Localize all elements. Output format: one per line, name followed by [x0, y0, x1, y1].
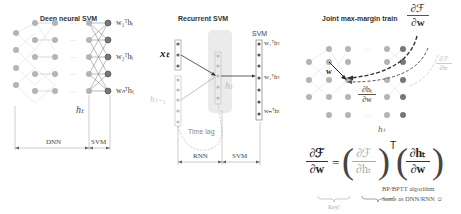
joint-hidden-label: hₜ — [378, 124, 386, 134]
recurrent-output-n: wₙᵀhₜ — [264, 107, 280, 115]
deep-span-dnn: DNN — [46, 138, 61, 146]
grad-w-fraction: ∂ℱ ∂w — [407, 2, 429, 28]
eq-lhs-den: ∂w — [306, 162, 328, 177]
grad-h-den: ∂hₜ — [436, 64, 452, 72]
recurrent-svm-panel: Recurrent SVM — [140, 0, 290, 214]
recurrent-output-1: w₁ᵀhₜ — [264, 39, 280, 47]
recurrent-svm-label: SVM — [252, 30, 267, 37]
eq-lhs: ∂ℱ ∂w — [306, 146, 328, 177]
recurrent-input-label: xₜ — [160, 47, 169, 60]
eq-term1-num: ∂ℱ — [352, 146, 376, 162]
deep-hidden-label: hₜ — [76, 104, 84, 115]
svg-text:···: ··· — [70, 37, 76, 43]
eq-paren-close-1: ) — [378, 140, 390, 182]
deep-svm-panel: Deep neural SVM — [0, 0, 140, 214]
joint-train-panel: Joint max-margin train ······ — [290, 0, 461, 214]
deep-output-2: w₂ᵀhₜ — [116, 52, 133, 61]
eq-equals: = — [332, 155, 339, 171]
weight-label: w — [326, 67, 332, 76]
dh-num: ∂hₜ — [358, 85, 376, 95]
eq-term2-den: ∂w — [406, 162, 430, 177]
svg-text:···: ··· — [70, 71, 76, 77]
deep-output-n: wₙᵀhₜ — [116, 86, 134, 95]
eq-paren-close-2: ) — [432, 140, 444, 182]
note-line-1: BP/BPTT algorithm — [382, 185, 434, 192]
deep-network-graphic: ······ ········· — [0, 0, 140, 214]
eq-term2-num: ∂hₜ — [406, 146, 430, 162]
svg-text:···: ··· — [70, 20, 76, 26]
dh-den: ∂w — [358, 95, 376, 104]
dh-dw-fraction: ∂hₜ ∂w — [358, 85, 376, 104]
eq-term1-den: ∂hₜ — [352, 162, 376, 177]
eq-lhs-num: ∂ℱ — [306, 146, 328, 162]
note-line-2: Same as DNN/RNN ☺ — [382, 195, 443, 202]
svg-text:···: ··· — [365, 46, 371, 52]
key-label: Key! — [328, 204, 340, 210]
grad-w-den: ∂w — [407, 16, 429, 28]
eq-term1: ∂ℱ ∂hₜ — [352, 146, 376, 177]
recurrent-hidden-label: hₜ — [225, 80, 233, 91]
svg-text:···: ··· — [70, 54, 76, 60]
deep-output-1: w₁ᵀhₜ — [116, 18, 133, 27]
grad-w-num: ∂ℱ — [407, 2, 429, 16]
grad-h-fraction: ∂ℱ ∂hₜ — [436, 55, 452, 72]
deep-span-svm: SVM — [91, 138, 106, 146]
svg-text:···: ··· — [70, 88, 76, 94]
svg-text:···: ··· — [365, 112, 371, 118]
grad-h-num: ∂ℱ — [436, 55, 452, 64]
recurrent-span-rnn: RNN — [193, 152, 208, 160]
recurrent-output-2: w₂ᵀhₜ — [264, 73, 280, 81]
recurrent-time-lag: Time lag — [188, 128, 215, 135]
eq-term2: ∂hₜ ∂w — [406, 146, 430, 177]
recurrent-prev-label: hₜ₋₁ — [150, 94, 166, 104]
recurrent-span-svm: SVM — [232, 152, 247, 160]
